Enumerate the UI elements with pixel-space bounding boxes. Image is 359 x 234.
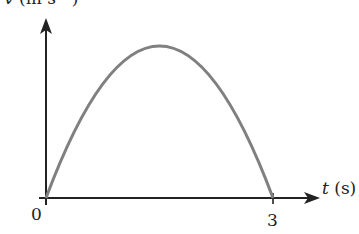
- x-tick-label-3: 3: [267, 212, 278, 229]
- velocity-time-graph: [0, 0, 359, 234]
- y-axis-label: v (m s⁻¹): [4, 0, 78, 7]
- y-axis-unit: (m s⁻¹): [14, 0, 79, 8]
- x-axis-label: t (s): [322, 180, 356, 197]
- velocity-curve: [46, 46, 273, 198]
- y-axis-variable: v: [4, 0, 14, 8]
- x-tick-label-0: 0: [31, 206, 42, 223]
- x-axis-unit: (s): [329, 178, 356, 198]
- x-axis-variable: t: [322, 178, 329, 198]
